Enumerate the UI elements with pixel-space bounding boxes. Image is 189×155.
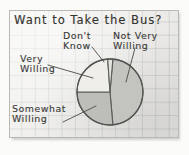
chart-title: Want to Take the Bus? <box>14 14 162 26</box>
slice-label-not-very-willing: Not Very Willing <box>113 31 158 51</box>
pie-slices <box>77 59 143 125</box>
pie-slice-not-very-willing <box>110 59 143 125</box>
pie-slice-somewhat-willing <box>77 92 113 125</box>
slice-label-very-willing: Very Willing <box>20 54 55 74</box>
handdrawn-pie-chart-photo: Want to Take the Bus? Don't Know Not Ver… <box>0 0 189 155</box>
slice-label-dont-know: Don't Know <box>63 31 91 51</box>
slice-label-somewhat-willing: Somewhat Willing <box>12 104 66 124</box>
leader-line-dont-know <box>92 47 104 62</box>
